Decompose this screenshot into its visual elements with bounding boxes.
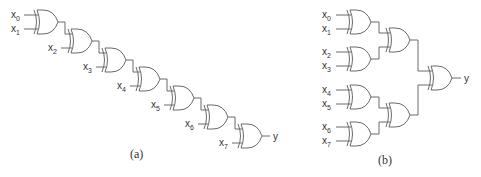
xor-gate-icon xyxy=(347,85,371,109)
output-label-y: y xyxy=(464,73,469,84)
xor-gate-icon xyxy=(347,10,371,34)
output-label-y: y xyxy=(273,131,278,142)
input-label-x3: x3 xyxy=(322,60,331,73)
input-label-x7: x7 xyxy=(322,135,331,148)
xor-gate-icon xyxy=(347,122,371,146)
input-label-x0: x0 xyxy=(322,9,331,22)
panel-a-caption: (a) xyxy=(130,147,143,161)
input-label-x3: x3 xyxy=(83,61,92,74)
input-label-x2: x2 xyxy=(48,42,57,55)
xor-gate-icon xyxy=(102,48,126,72)
input-label-x4: x4 xyxy=(117,80,126,93)
xor-gate-icon xyxy=(170,86,194,110)
xor-gate-icon xyxy=(386,103,410,127)
panel-b-balanced-tree: x0 x1 x2 x3 x4 x5 x6 x7 y (b) xyxy=(322,9,469,167)
input-label-x6: x6 xyxy=(322,121,331,134)
input-label-x1: x1 xyxy=(11,23,20,36)
panel-a-linear-chain: x0 x1 x2 x3 x4 x5 x6 x7 y ( xyxy=(11,9,278,161)
xor-gate-icon xyxy=(386,28,410,52)
xor-gate-icon xyxy=(136,67,160,91)
xor-gate-icon xyxy=(34,10,58,34)
xor-gate-icon xyxy=(347,47,371,71)
input-label-x5: x5 xyxy=(151,99,160,112)
input-label-x4: x4 xyxy=(322,84,331,97)
xor-gate-icon xyxy=(68,29,92,53)
xor-gate-icon xyxy=(428,66,452,90)
xor-networks-diagram: x0 x1 x2 x3 x4 x5 x6 x7 y ( xyxy=(0,0,481,177)
input-label-x2: x2 xyxy=(322,46,331,59)
input-label-x0: x0 xyxy=(11,9,20,22)
input-label-x5: x5 xyxy=(322,98,331,111)
input-label-x6: x6 xyxy=(185,118,194,131)
panel-b-caption: (b) xyxy=(378,153,392,167)
input-label-x7: x7 xyxy=(219,137,228,150)
xor-gate-icon xyxy=(238,124,262,148)
input-label-x1: x1 xyxy=(322,23,331,36)
xor-gate-icon xyxy=(204,105,228,129)
